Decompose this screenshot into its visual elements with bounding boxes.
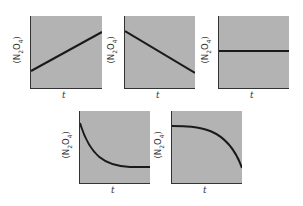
plot-area [124,16,195,89]
x-axis-label: t [250,90,254,100]
y-axis-label: (N2O4) [153,131,165,158]
y-axis-label: (N2O4) [12,36,24,63]
y-axis-label: (N2O4) [61,131,73,158]
x-axis-label: t [111,185,115,195]
curve-exponential-decay [80,111,150,183]
x-axis-label: t [203,185,207,195]
x-axis-label: t [156,90,160,100]
curve-accelerating-decrease [172,111,242,183]
plot-area [171,111,242,184]
plot-area [218,16,289,89]
line-decreasing [125,16,195,88]
y-axis-label: (N2O4) [200,36,212,63]
line-constant [219,16,289,88]
plot-area [79,111,150,184]
plot-area [30,16,102,89]
line-increasing [31,16,102,88]
y-axis-label: (N2O4) [106,36,118,63]
x-axis-label: t [62,90,66,100]
